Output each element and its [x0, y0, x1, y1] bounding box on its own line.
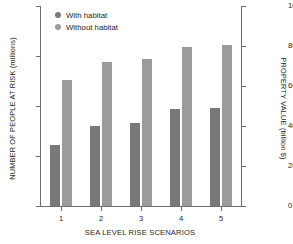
tick-mark — [36, 56, 40, 57]
y-axis-right-tick-label: 1000 — [288, 1, 293, 10]
y-axis-right-tick-label: 600 — [288, 81, 293, 90]
x-axis-tick-label: 1 — [46, 214, 76, 223]
y-axis-label-right: PROPERTY VALUE (billion $) — [279, 9, 288, 209]
tick-mark — [242, 46, 246, 47]
bar — [210, 108, 220, 206]
y-axis-label-left: NUMBER OF PEOPLE AT RISK (millions) — [8, 9, 17, 209]
tick-mark — [36, 156, 40, 157]
tick-mark — [242, 6, 246, 7]
tick-mark — [242, 126, 246, 127]
chart-figure: NUMBER OF PEOPLE AT RISK (millions) PROP… — [0, 0, 293, 244]
tick-mark — [141, 207, 142, 211]
bar — [62, 80, 72, 206]
x-axis-tick-label: 3 — [126, 214, 156, 223]
bar — [142, 59, 152, 207]
chart-legend: With habitat Without habitat — [55, 9, 118, 33]
x-axis-tick-label: 5 — [206, 214, 236, 223]
tick-mark — [61, 207, 62, 211]
bar — [102, 62, 112, 206]
plot-area: 01234 02004006008001000 12345 — [40, 6, 242, 207]
tick-mark — [181, 207, 182, 211]
legend-item-with-habitat: With habitat — [55, 9, 118, 21]
bar — [182, 47, 192, 206]
bar — [90, 126, 100, 206]
tick-mark — [36, 206, 40, 207]
bar — [222, 45, 232, 207]
legend-circle-icon — [55, 12, 61, 18]
y-axis-right-tick-label: 0 — [288, 201, 293, 210]
bar — [130, 123, 140, 206]
tick-mark — [36, 106, 40, 107]
legend-label: Without habitat — [66, 23, 118, 32]
tick-mark — [221, 207, 222, 211]
y-axis-right-tick-label: 400 — [288, 121, 293, 130]
legend-label: With habitat — [66, 11, 107, 20]
legend-item-without-habitat: Without habitat — [55, 21, 118, 33]
tick-mark — [242, 86, 246, 87]
x-axis-tick-label: 2 — [86, 214, 116, 223]
y-axis-right-tick-label: 200 — [288, 161, 293, 170]
x-axis-tick-label: 4 — [166, 214, 196, 223]
x-axis-label: SEA LEVEL RISE SCENARIOS — [40, 228, 240, 237]
tick-mark — [242, 166, 246, 167]
bar — [170, 109, 180, 206]
bar — [50, 145, 60, 206]
y-axis-right-tick-label: 800 — [288, 41, 293, 50]
tick-mark — [101, 207, 102, 211]
tick-mark — [36, 6, 40, 7]
legend-circle-icon — [55, 24, 61, 30]
tick-mark — [242, 206, 246, 207]
